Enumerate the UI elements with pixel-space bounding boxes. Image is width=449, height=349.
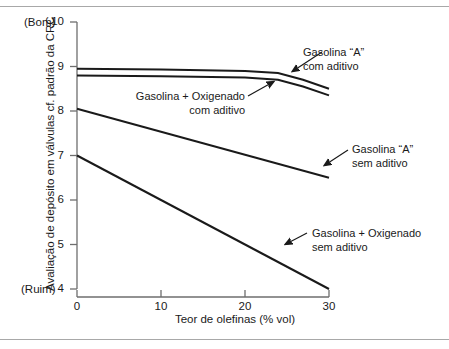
annotation-gasolina-a-sem-aditivo: Gasolina “A” sem aditivo (352, 142, 413, 170)
annotation-line-2: com aditivo (130, 103, 245, 117)
series-line-gasolina-a-sem-aditivo (77, 109, 329, 178)
figure-container: (Bom) (Ruim) 10 9 8 7 6 5 4 0 10 20 30 A… (0, 0, 449, 349)
y-axis-title: Avaliação de depósito em válvulas cf. pa… (44, 31, 56, 291)
annotation-line-1: Gasolina “A” (352, 143, 413, 155)
arrow-gasolina-oxigenado-com-aditivo (248, 82, 273, 96)
x-tick-label-0: 0 (64, 301, 90, 313)
x-tick-label-20: 20 (232, 301, 258, 313)
annotation-gasolina-oxigenado-com-aditivo: Gasolina + Oxigenado com aditivo (130, 89, 245, 117)
x-axis-title: Teor de olefinas (% vol) (120, 313, 350, 325)
annotation-line-1: Gasolina + Oxigenado (136, 90, 245, 102)
annotation-line-2: sem aditivo (312, 240, 421, 254)
series-line-gasolina-a-com-aditivo (77, 69, 329, 89)
y-axis-ticks (70, 22, 77, 289)
annotation-line-1: Gasolina + Oxigenado (312, 227, 421, 239)
annotation-gasolina-a-com-aditivo: Gasolina “A” com aditivo (303, 45, 364, 73)
annotation-line-2: sem aditivo (352, 156, 413, 170)
arrow-gasolina-oxigenado-sem-aditivo (286, 233, 307, 244)
x-tick-label-30: 30 (316, 301, 342, 313)
chart-plot-area (0, 0, 449, 349)
annotation-line-1: Gasolina “A” (303, 46, 364, 58)
x-tick-label-10: 10 (148, 301, 174, 313)
arrow-gasolina-a-sem-aditivo (325, 150, 348, 165)
x-axis-ticks (77, 290, 329, 297)
annotation-gasolina-oxigenado-sem-aditivo: Gasolina + Oxigenado sem aditivo (312, 226, 421, 254)
series-line-gasolina-oxigenado-sem-aditivo (77, 156, 329, 290)
annotation-line-2: com aditivo (303, 59, 364, 73)
